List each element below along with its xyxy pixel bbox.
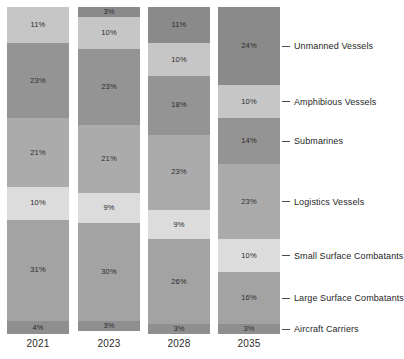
legend-label: Logistics Vessels [294, 197, 364, 207]
segment-value-label: 21% [30, 149, 45, 157]
segment-value-label: 11% [31, 21, 46, 29]
legend-item-aircraft-carriers[interactable]: Aircraft Carriers [282, 324, 359, 334]
segment-value-label: 18% [171, 101, 186, 109]
segment-value-label: 11% [172, 21, 187, 29]
bar-segment-aircraft-carriers[interactable]: 4% [7, 321, 69, 334]
x-axis-tick-2035: 2035 [218, 338, 280, 349]
legend-item-large-surface-combatants[interactable]: Large Surface Combatants [282, 293, 404, 303]
bar-segment-unmanned-vessels[interactable]: 24% [218, 7, 280, 85]
leader-line [282, 141, 290, 142]
bar-segment-large-surface-combatants[interactable]: 26% [148, 239, 210, 324]
segment-value-label: 3% [103, 322, 114, 330]
bar-segment-submarines[interactable]: 18% [148, 76, 210, 135]
leader-line [282, 101, 290, 102]
plot-area: 11%23%21%10%31%4%20213%10%23%21%9%30%3%2… [0, 0, 272, 359]
leader-line [282, 298, 290, 299]
legend-label: Submarines [294, 136, 343, 146]
x-axis-tick-2021: 2021 [7, 338, 69, 349]
legend-item-small-surface-combatants[interactable]: Small Surface Combatants [282, 251, 403, 261]
segment-value-label: 30% [101, 268, 116, 276]
bar-2023[interactable]: 3%10%23%21%9%30%3% [78, 7, 140, 334]
bar-segment-unmanned-vessels[interactable]: 11% [148, 7, 210, 43]
bar-segment-small-surface-combatants[interactable]: 9% [148, 210, 210, 239]
legend-label: Large Surface Combatants [294, 293, 404, 303]
bar-segment-logistics-vessels[interactable]: 23% [148, 135, 210, 210]
segment-value-label: 31% [30, 266, 45, 274]
segment-value-label: 9% [173, 221, 184, 229]
bar-segment-aircraft-carriers[interactable]: 3% [218, 324, 280, 334]
segment-value-label: 23% [241, 198, 256, 206]
bar-segment-submarines[interactable]: 23% [7, 43, 69, 118]
segment-value-label: 9% [103, 204, 114, 212]
bar-segment-large-surface-combatants[interactable]: 31% [7, 220, 69, 321]
segment-value-label: 10% [30, 199, 45, 207]
legend-item-unmanned-vessels[interactable]: Unmanned Vessels [282, 41, 373, 51]
legend-label: Aircraft Carriers [294, 324, 359, 334]
segment-value-label: 14% [241, 137, 256, 145]
x-axis-tick-2028: 2028 [148, 338, 210, 349]
bar-segment-aircraft-carriers[interactable]: 3% [148, 324, 210, 334]
legend-label: Small Surface Combatants [294, 251, 403, 261]
legend-item-amphibious-vessels[interactable]: Amphibious Vessels [282, 97, 376, 107]
segment-value-label: 4% [32, 324, 43, 332]
bar-2028[interactable]: 11%10%18%23%9%26%3% [148, 7, 210, 334]
segment-value-label: 23% [171, 168, 186, 176]
bar-segment-small-surface-combatants[interactable]: 10% [7, 187, 69, 220]
bar-segment-amphibious-vessels[interactable]: 10% [78, 17, 140, 50]
bar-segment-logistics-vessels[interactable]: 23% [218, 164, 280, 239]
bar-segment-small-surface-combatants[interactable]: 10% [218, 239, 280, 272]
bar-segment-amphibious-vessels[interactable]: 11% [7, 7, 69, 43]
legend-item-submarines[interactable]: Submarines [282, 136, 343, 146]
bar-segment-amphibious-vessels[interactable]: 10% [218, 85, 280, 118]
segment-value-label: 3% [243, 325, 254, 333]
segment-value-label: 23% [101, 83, 116, 91]
segment-value-label: 3% [103, 8, 114, 16]
leader-line [282, 46, 290, 47]
bar-segment-amphibious-vessels[interactable]: 10% [148, 43, 210, 76]
bar-segment-logistics-vessels[interactable]: 21% [7, 118, 69, 187]
bar-segment-aircraft-carriers[interactable]: 3% [78, 321, 140, 331]
segment-value-label: 10% [241, 252, 256, 260]
segment-value-label: 16% [241, 294, 256, 302]
segment-value-label: 10% [171, 56, 186, 64]
leader-line [282, 201, 290, 202]
bar-segment-logistics-vessels[interactable]: 21% [78, 125, 140, 194]
x-axis-tick-2023: 2023 [78, 338, 140, 349]
segment-value-label: 10% [241, 98, 256, 106]
bar-segment-large-surface-combatants[interactable]: 30% [78, 223, 140, 321]
legend-item-logistics-vessels[interactable]: Logistics Vessels [282, 197, 364, 207]
segment-value-label: 21% [101, 155, 116, 163]
bar-2035[interactable]: 24%10%14%23%10%16%3% [218, 7, 280, 334]
segment-value-label: 24% [241, 42, 256, 50]
bar-2021[interactable]: 11%23%21%10%31%4% [7, 7, 69, 334]
bar-segment-submarines[interactable]: 23% [78, 49, 140, 124]
segment-value-label: 10% [101, 29, 116, 37]
segment-value-label: 23% [30, 77, 45, 85]
segment-value-label: 26% [171, 278, 186, 286]
segment-value-label: 3% [173, 325, 184, 333]
legend-label: Amphibious Vessels [294, 97, 376, 107]
leader-line [282, 255, 290, 256]
leader-line [282, 329, 290, 330]
bar-segment-large-surface-combatants[interactable]: 16% [218, 272, 280, 324]
bar-segment-submarines[interactable]: 14% [218, 118, 280, 164]
legend-label: Unmanned Vessels [294, 41, 373, 51]
bar-segment-unmanned-vessels[interactable]: 3% [78, 7, 140, 17]
bar-segment-small-surface-combatants[interactable]: 9% [78, 193, 140, 222]
